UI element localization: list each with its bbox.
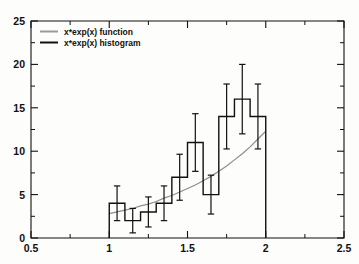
y-tick-label: 15 [13, 102, 25, 114]
y-tick-label: 20 [13, 58, 25, 70]
legend-label-function: x*exp(x) function [64, 27, 133, 37]
legend-label-histogram: x*exp(x) histogram [64, 38, 141, 48]
x-tick-label: 1 [106, 242, 112, 254]
x-tick-label: 2.5 [337, 242, 352, 254]
y-tick-label: 10 [13, 145, 25, 157]
y-tick-label: 0 [19, 232, 25, 244]
histogram-plot: 0.511.522.5 0510152025 x*exp(x) function… [0, 0, 359, 264]
y-tick-label: 25 [13, 15, 25, 27]
chart-canvas: 0.511.522.5 0510152025 x*exp(x) function… [0, 0, 359, 264]
x-tick-label: 1.5 [180, 242, 195, 254]
plot-background [0, 0, 359, 264]
x-tick-label: 2 [263, 242, 269, 254]
y-tick-label: 5 [19, 189, 25, 201]
x-tick-label: 0.5 [24, 242, 39, 254]
